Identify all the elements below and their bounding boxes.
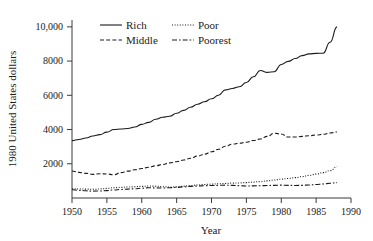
x-tick-label: 1980 xyxy=(271,206,291,217)
chart-figure: 200040006000800010,000 19501955196019651… xyxy=(0,0,373,241)
x-tick-label: 1985 xyxy=(306,206,326,217)
y-tick-label: 2000 xyxy=(43,158,63,169)
y-tick-label: 10,000 xyxy=(36,21,64,32)
x-tick-label: 1960 xyxy=(132,206,152,217)
y-axis-title: 1980 United States dollars xyxy=(6,51,18,167)
legend-label-poor: Poor xyxy=(198,19,219,31)
line-chart-svg: 200040006000800010,000 19501955196019651… xyxy=(0,0,373,241)
x-tick-label: 1965 xyxy=(167,206,187,217)
legend-label-poorest: Poorest xyxy=(198,34,231,46)
chart-legend: RichPoorMiddlePoorest xyxy=(100,19,231,46)
x-tick-label: 1975 xyxy=(236,206,256,217)
y-tick-group: 200040006000800010,000 xyxy=(36,21,73,169)
y-tick-label: 8000 xyxy=(43,55,63,66)
y-tick-label: 4000 xyxy=(43,124,63,135)
x-tick-label: 1950 xyxy=(62,206,82,217)
x-tick-group: 195019551960196519701975198019851990 xyxy=(62,198,361,217)
x-axis-title: Year xyxy=(201,224,222,236)
x-tick-label: 1990 xyxy=(341,206,361,217)
y-tick-label: 6000 xyxy=(43,90,63,101)
axes-group xyxy=(72,20,351,198)
legend-label-middle: Middle xyxy=(126,34,158,46)
series-line-poorest xyxy=(72,183,337,192)
series-line-middle xyxy=(72,132,337,175)
x-tick-label: 1970 xyxy=(202,206,222,217)
legend-label-rich: Rich xyxy=(126,19,147,31)
x-tick-label: 1955 xyxy=(97,206,117,217)
series-group xyxy=(72,27,337,191)
